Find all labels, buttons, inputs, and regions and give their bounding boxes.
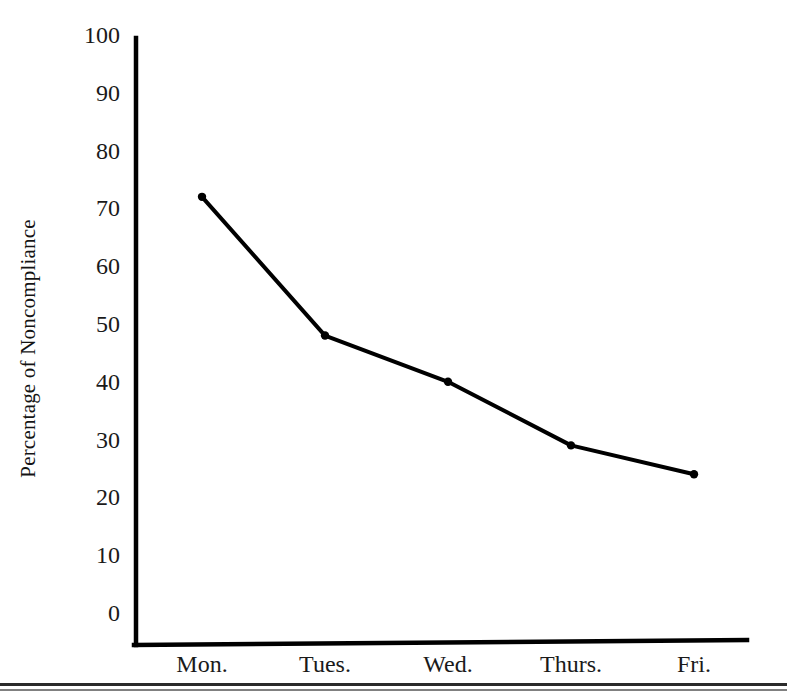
x-axis-line [134,640,747,645]
line-chart: Percentage of Noncompliance 0 10 20 30 4… [0,0,787,697]
x-tick-label-mon: Mon. [132,652,272,676]
page-divider-rule [0,683,787,686]
x-tick-label-thurs: Thurs. [501,652,641,676]
data-point-wed [444,378,452,386]
x-tick-label-wed: Wed. [378,652,518,676]
data-point-mon [198,193,206,201]
data-series-line [202,197,694,474]
data-point-tues [321,331,329,339]
x-tick-label-fri: Fri. [624,652,764,676]
plot-area [0,0,787,697]
x-tick-label-tues: Tues. [255,652,395,676]
data-point-markers [198,193,698,479]
page-divider-rule-secondary [0,689,787,691]
data-point-thurs [567,441,575,449]
data-point-fri [690,470,698,478]
